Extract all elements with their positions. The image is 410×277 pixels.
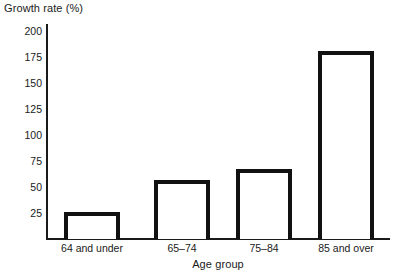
y-tick-label: 150 [2, 78, 42, 88]
x-tick-label: 85 and over [318, 242, 373, 255]
x-tick-label: 65–74 [167, 242, 196, 255]
y-tick-label: 100 [2, 130, 42, 140]
bars-layer [46, 24, 390, 239]
x-axis-title: Age group [46, 258, 390, 270]
bar-chart: Growth rate (%) 200 175 150 125 100 75 5… [0, 0, 410, 277]
y-axis-tick-labels: 200 175 150 125 100 75 50 25 [0, 0, 42, 277]
bar-85-and-over [318, 51, 374, 239]
x-tick-label: 64 and under [61, 242, 123, 255]
bar-75-84 [236, 169, 292, 239]
y-tick-label: 50 [2, 182, 42, 192]
y-tick-label: 200 [2, 26, 42, 36]
y-tick-label: 125 [2, 104, 42, 114]
bar-65-74 [154, 180, 210, 239]
y-tick-label: 175 [2, 52, 42, 62]
x-tick-label: 75–84 [249, 242, 278, 255]
y-tick-label: 75 [2, 156, 42, 166]
x-axis-tick-labels: 64 and under 65–74 75–84 85 and over [46, 242, 390, 258]
y-tick-label: 25 [2, 208, 42, 218]
bar-64-and-under [64, 212, 120, 239]
